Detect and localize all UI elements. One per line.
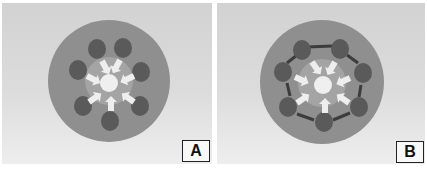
panel-a: A (2, 3, 212, 164)
center-cell (314, 76, 332, 94)
center-cell (100, 74, 118, 92)
diagram-b (217, 3, 425, 164)
diagram-a (2, 3, 212, 164)
panel-label-b: B (396, 141, 424, 163)
panel-label-a: A (182, 140, 210, 162)
panel-b: B (217, 3, 425, 164)
